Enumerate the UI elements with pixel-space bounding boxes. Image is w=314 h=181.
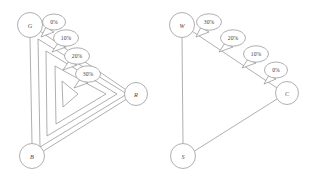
node-label-b: B xyxy=(30,153,34,160)
edge-w-s xyxy=(182,38,183,144)
callout-label-left-1: 10% xyxy=(61,35,72,41)
edge-g-b xyxy=(30,38,32,144)
callout-label-left-3: 30% xyxy=(83,71,94,77)
nested-triangle-ring-4 xyxy=(62,81,78,107)
callout-label-left-2: 20% xyxy=(72,53,83,59)
callout-label-right-1: 20% xyxy=(228,35,239,41)
diagram-canvas: 0% 10% 20% 30% G B R 30% 20% 10% xyxy=(0,0,314,181)
edge-s-c xyxy=(195,99,278,151)
figure-container: 0% 10% 20% 30% G B R 30% 20% 10% xyxy=(0,0,314,181)
node-label-w: W xyxy=(179,22,185,29)
callout-label-right-3: 0% xyxy=(272,67,280,73)
callout-label-left-0: 0% xyxy=(50,19,58,25)
node-label-r: R xyxy=(133,91,138,98)
callout-label-right-0: 30% xyxy=(204,19,215,25)
callout-label-right-2: 10% xyxy=(251,51,262,57)
node-label-g: G xyxy=(28,22,33,29)
node-label-s: S xyxy=(181,153,184,160)
left-panel: 0% 10% 20% 30% G B R xyxy=(18,13,148,169)
right-panel: 30% 20% 10% 0% W S C xyxy=(170,13,299,169)
